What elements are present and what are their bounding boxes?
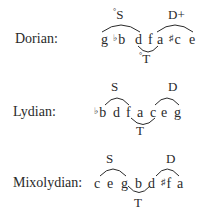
mixolydian-subdominant-arc xyxy=(100,169,126,176)
note: g xyxy=(174,106,181,120)
dorian-subdominant-arc xyxy=(102,25,140,32)
dorian-subdominant-label: °S xyxy=(113,8,123,21)
lydian-dominant-arc xyxy=(155,98,179,105)
note: d xyxy=(113,106,120,120)
dorian-dominant-arc xyxy=(157,25,193,32)
note: c xyxy=(94,177,100,191)
note: e xyxy=(189,33,195,47)
mixolydian-subdominant-label: S xyxy=(106,152,113,165)
note: e xyxy=(161,106,167,120)
note: g xyxy=(121,177,128,191)
mode-label-mixolydian: Mixolydian: xyxy=(13,176,82,190)
note: e xyxy=(107,177,113,191)
note: d xyxy=(135,33,142,47)
note: a xyxy=(157,33,163,47)
note: a xyxy=(137,106,143,120)
lydian-subdominant-label: S xyxy=(111,80,118,93)
note: ♯c xyxy=(169,33,181,47)
mixolydian-dominant-arc xyxy=(156,169,179,176)
note: ♭b xyxy=(94,106,106,120)
dorian-dominant-label: D+ xyxy=(168,8,185,21)
sharp-sign: ♯ xyxy=(161,177,166,187)
mixolydian-tonic-label: T xyxy=(134,196,142,209)
note: f xyxy=(126,106,131,120)
lydian-tonic-label: T xyxy=(136,124,144,137)
lydian-subdominant-arc xyxy=(105,98,129,105)
note: g xyxy=(101,33,108,47)
note: d xyxy=(148,177,155,191)
note: c xyxy=(150,106,156,120)
note: ♯f xyxy=(161,177,171,191)
note: ♭b xyxy=(113,33,125,47)
mode-label-dorian: Dorian: xyxy=(15,32,58,46)
note: b xyxy=(135,177,142,191)
flat-sign: ♭ xyxy=(94,106,98,116)
note: f xyxy=(148,33,153,47)
mode-label-lydian: Lydian: xyxy=(13,105,56,119)
dorian-tonic-label: °T xyxy=(139,52,150,65)
sharp-sign: ♯ xyxy=(169,33,174,43)
note: a xyxy=(177,177,183,191)
lydian-dominant-label: D xyxy=(168,80,177,93)
mixolydian-dominant-label: D xyxy=(166,152,175,165)
flat-sign: ♭ xyxy=(113,33,117,43)
